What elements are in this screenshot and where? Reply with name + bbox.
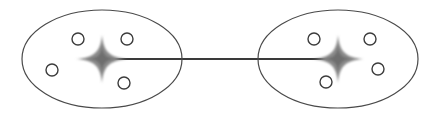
cluster-diagram bbox=[0, 0, 434, 118]
cluster-left-data-point-1 bbox=[72, 33, 84, 45]
cluster-left-data-point-4 bbox=[118, 77, 130, 89]
cluster-left-data-point-3 bbox=[46, 64, 58, 76]
cluster-right-centroid-star-core bbox=[324, 46, 353, 72]
cluster-right-data-point-2 bbox=[364, 33, 376, 45]
cluster-right-data-point-3 bbox=[372, 63, 384, 75]
diagram-canvas bbox=[0, 0, 434, 118]
cluster-left-data-point-2 bbox=[121, 33, 133, 45]
cluster-left-centroid-star-core bbox=[88, 46, 117, 72]
cluster-right-data-point-1 bbox=[308, 33, 320, 45]
cluster-right-data-point-4 bbox=[320, 76, 332, 88]
